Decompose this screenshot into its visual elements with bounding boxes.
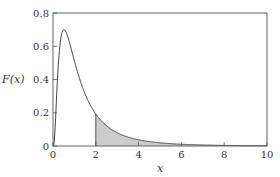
x-tick-label: 0 — [50, 149, 56, 160]
y-tick-label: 0.2 — [33, 107, 49, 118]
x-axis-label: x — [157, 162, 164, 175]
y-tick-label: 0.6 — [33, 41, 49, 52]
x-tick-label: 6 — [178, 149, 184, 160]
x-tick-label: 4 — [135, 149, 141, 160]
x-tick-label: 8 — [221, 149, 227, 160]
y-tick-label: 0.4 — [33, 74, 49, 85]
density-curve — [53, 30, 267, 146]
shaded-tail-area — [96, 114, 267, 146]
plot-frame — [53, 13, 267, 146]
y-tick-label: 0 — [43, 141, 49, 152]
x-tick-label: 10 — [261, 149, 274, 160]
x-tick-label: 2 — [93, 149, 99, 160]
y-tick-label: 0.8 — [33, 8, 49, 19]
y-axis-label: F(x) — [1, 73, 24, 86]
pdf-chart: 0246810 00.20.40.60.8 x F(x) — [0, 0, 280, 177]
